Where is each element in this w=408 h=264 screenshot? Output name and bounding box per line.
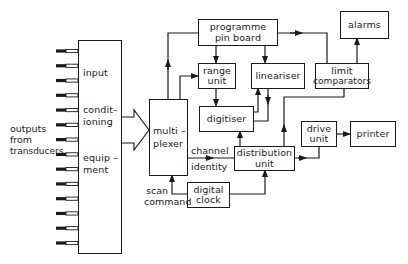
outputs-label: outputs <box>10 124 46 135</box>
equipment-label-1: equip – <box>83 153 118 164</box>
limit-label: limit <box>331 66 352 77</box>
distribution-label: distribution <box>237 148 292 159</box>
limit-comparators-box: limit comparators <box>315 63 369 89</box>
alarms-box: alarms <box>340 11 389 39</box>
clock-label: clock <box>196 195 221 206</box>
lineariser-label: lineariser <box>255 71 300 82</box>
from-label: from <box>10 135 32 146</box>
distribution-unit-box: distribution unit <box>234 146 295 171</box>
multiplexer-box: multi – plexer <box>149 99 188 176</box>
programme-pin-board-box: programme pin board <box>198 19 278 46</box>
conditioning-label-2: ioning <box>83 117 113 128</box>
digitiser-label: digitiser <box>207 114 246 125</box>
digitiser-box: digitiser <box>199 106 254 132</box>
command-label: command <box>144 197 191 208</box>
programme-label: programme <box>210 22 267 33</box>
lineariser-box: lineariser <box>251 63 305 89</box>
pin-board-label: pin board <box>215 33 261 44</box>
drive-unit-box: drive unit <box>301 121 337 147</box>
multiplexer-label-2: plexer <box>153 139 183 150</box>
drive-unit-label: unit <box>310 134 329 145</box>
range-unit-label: unit <box>208 76 227 87</box>
channel-label: channel <box>191 146 229 157</box>
printer-box: printer <box>350 121 396 147</box>
input-conditioning-equipment-box: input condit– ioning equip – ment <box>78 40 122 254</box>
range-unit-box: range unit <box>198 63 236 89</box>
identity-label: identity <box>191 162 227 173</box>
distribution-unit-label: unit <box>255 159 274 170</box>
data-logger-block-diagram: input condit– ioning equip – ment output… <box>0 0 408 264</box>
digital-clock-box: digital clock <box>187 182 230 208</box>
alarms-label: alarms <box>348 20 381 31</box>
hollow-arrow-icon <box>121 110 149 150</box>
conditioning-label-1: condit– <box>83 105 118 116</box>
transducers-label: transducers <box>10 146 63 157</box>
comparators-label: comparators <box>313 76 371 87</box>
input-label: input <box>83 68 108 79</box>
printer-label: printer <box>357 129 390 140</box>
multiplexer-label-1: multi – <box>153 126 186 137</box>
equipment-label-2: ment <box>83 165 108 176</box>
scan-label: scan <box>146 186 168 197</box>
